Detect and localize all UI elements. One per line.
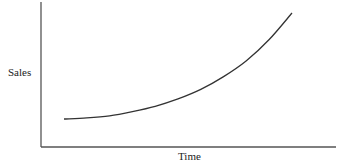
chart-canvas xyxy=(0,0,347,168)
sales-curve xyxy=(64,13,292,119)
y-axis-label: Sales xyxy=(8,66,31,78)
x-axis-label: Time xyxy=(178,150,201,162)
